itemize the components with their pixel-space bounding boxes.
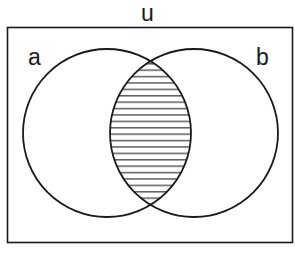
intersection-hatch: [0, 0, 295, 258]
venn-diagram: u a b: [0, 0, 295, 258]
venn-diagram-graphic: [0, 0, 295, 258]
set-b-label: b: [256, 46, 269, 69]
intersection-region: [0, 0, 295, 258]
set-a-label: a: [28, 46, 41, 69]
universe-label: u: [141, 2, 154, 25]
